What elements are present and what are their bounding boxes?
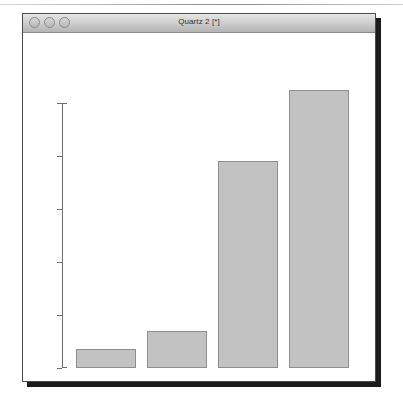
y-axis-bottom-cap	[62, 367, 67, 368]
y-tick-label: 100	[22, 104, 23, 117]
y-tick-mark	[57, 368, 62, 369]
page-divider-rule	[0, 4, 403, 5]
y-axis-top-cap	[62, 103, 67, 104]
y-tick: 20	[23, 315, 62, 316]
y-tick: 100	[23, 103, 62, 104]
screenshot-root: Quartz 2 [*] 020406080100	[0, 0, 403, 404]
y-tick-label: 0	[22, 369, 23, 373]
y-tick-label: 80	[22, 157, 23, 166]
y-tick-label: 60	[22, 210, 23, 219]
y-axis-line	[62, 103, 63, 368]
window-titlebar[interactable]: Quartz 2 [*]	[23, 14, 375, 33]
y-tick-mark	[57, 103, 62, 104]
y-tick: 40	[23, 262, 62, 263]
bar	[147, 331, 207, 368]
quartz-window[interactable]: Quartz 2 [*] 020406080100	[22, 13, 376, 382]
plot-canvas: 020406080100	[23, 33, 375, 381]
y-tick: 80	[23, 156, 62, 157]
bar	[76, 349, 136, 368]
y-tick-mark	[57, 262, 62, 263]
y-tick-mark	[57, 209, 62, 210]
y-tick-mark	[57, 315, 62, 316]
y-tick-mark	[57, 156, 62, 157]
y-tick-label: 40	[22, 263, 23, 272]
window-title: Quartz 2 [*]	[23, 17, 375, 26]
y-tick: 0	[23, 368, 62, 369]
y-tick-label: 20	[22, 316, 23, 325]
bar	[218, 161, 278, 368]
bar	[289, 90, 349, 368]
y-tick: 60	[23, 209, 62, 210]
